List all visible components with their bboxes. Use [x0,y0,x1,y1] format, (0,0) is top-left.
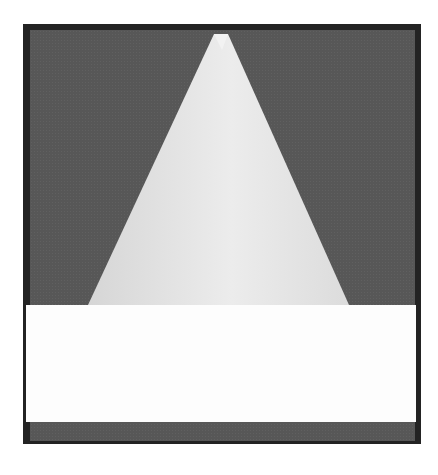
white-band [26,305,416,422]
